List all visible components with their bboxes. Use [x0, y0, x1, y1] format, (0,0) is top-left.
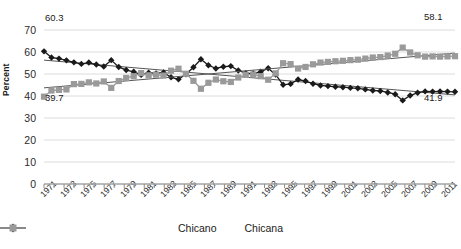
chicana-start-value-label: 39.7 — [45, 92, 64, 103]
legend-item-chicana[interactable]: Chicana — [245, 222, 284, 234]
legend-label-chicana: Chicana — [245, 222, 284, 234]
chart-legend: Chicano Chicana — [0, 222, 461, 234]
legend-marker-square-icon — [0, 222, 26, 234]
legend-label-chicano: Chicano — [178, 222, 217, 234]
chart-container: Percent 010203040506070 1971197319751977… — [0, 0, 461, 249]
chicana-end-value-label: 58.1 — [424, 11, 443, 22]
plot-area — [0, 0, 461, 249]
chicano-end-value-label: 41.9 — [424, 92, 443, 103]
chicano-start-value-label: 60.3 — [45, 12, 64, 23]
legend-item-chicano[interactable]: Chicano — [178, 222, 217, 234]
